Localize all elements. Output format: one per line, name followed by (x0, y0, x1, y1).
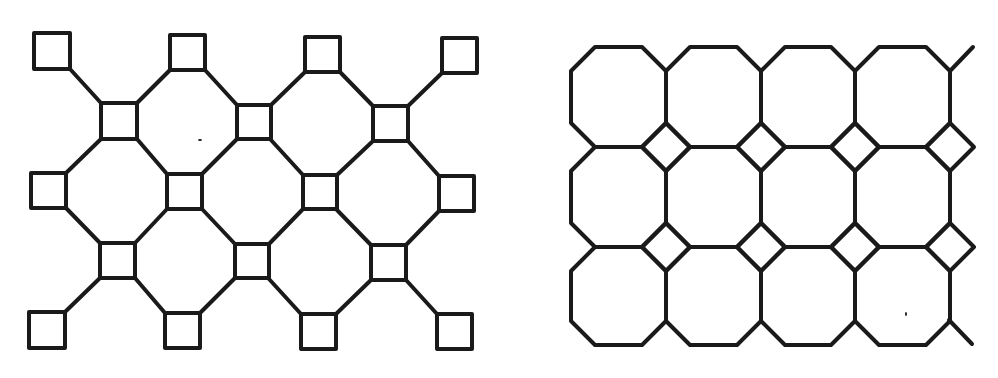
edge-tail-line (949, 320, 972, 344)
square-node (235, 244, 269, 278)
square-node (373, 106, 408, 141)
link-line (269, 209, 303, 244)
link-line (66, 208, 100, 243)
diamond-square (642, 223, 690, 271)
diamond-square (642, 123, 690, 171)
edge-tail-line (950, 47, 973, 71)
link-line (137, 139, 167, 174)
square-node (237, 105, 271, 139)
link-line (135, 209, 167, 243)
square-node (371, 245, 406, 280)
link-line (137, 70, 170, 103)
link-line (200, 278, 235, 313)
tiling-diagram (0, 0, 998, 378)
link-line (66, 139, 101, 173)
octagon-cell (761, 247, 855, 345)
square-node (305, 37, 340, 72)
link-line (70, 69, 101, 103)
link-line (65, 278, 100, 312)
link-line (271, 140, 303, 175)
diamond-square (926, 223, 974, 271)
square-node (101, 103, 137, 139)
octagon-cell (666, 47, 761, 147)
diamond-square (737, 223, 785, 271)
link-line (202, 139, 237, 174)
octagon-square-tiling-panel (571, 47, 974, 345)
octagon-cell (571, 147, 666, 247)
octagon-cell (571, 247, 666, 345)
speck-mark (905, 312, 907, 316)
square-node (437, 314, 472, 349)
diamond-square (926, 123, 974, 171)
octagon-cell (666, 247, 761, 345)
square-octagon-network-panel (29, 33, 477, 349)
link-line (271, 72, 305, 105)
link-line (269, 279, 301, 314)
diamond-square (737, 123, 785, 171)
link-line (406, 280, 437, 314)
link-line (337, 141, 373, 175)
octagon-cell (855, 47, 950, 147)
link-line (408, 73, 442, 106)
square-node (29, 312, 65, 348)
octagon-cell (666, 147, 761, 247)
square-node (301, 314, 336, 349)
link-line (337, 210, 371, 245)
square-node (439, 176, 474, 211)
speck-mark (198, 139, 202, 141)
link-line (340, 72, 373, 106)
link-line (336, 280, 371, 314)
square-node (34, 33, 70, 69)
link-line (408, 141, 439, 176)
link-line (205, 70, 237, 105)
octagon-cell (761, 147, 855, 247)
square-node (100, 243, 135, 278)
octagon-cell (855, 247, 950, 345)
square-node (165, 313, 200, 348)
link-line (202, 209, 235, 244)
diamond-square (831, 223, 879, 271)
link-line (406, 211, 439, 245)
diamond-square (831, 123, 879, 171)
square-node (442, 38, 477, 73)
square-node (303, 175, 337, 209)
link-line (135, 278, 165, 313)
square-node (167, 174, 202, 209)
octagon-cell (761, 47, 855, 147)
octagon-cell (855, 147, 950, 247)
square-node (170, 35, 205, 70)
octagon-cell (571, 47, 666, 147)
square-node (31, 173, 66, 208)
